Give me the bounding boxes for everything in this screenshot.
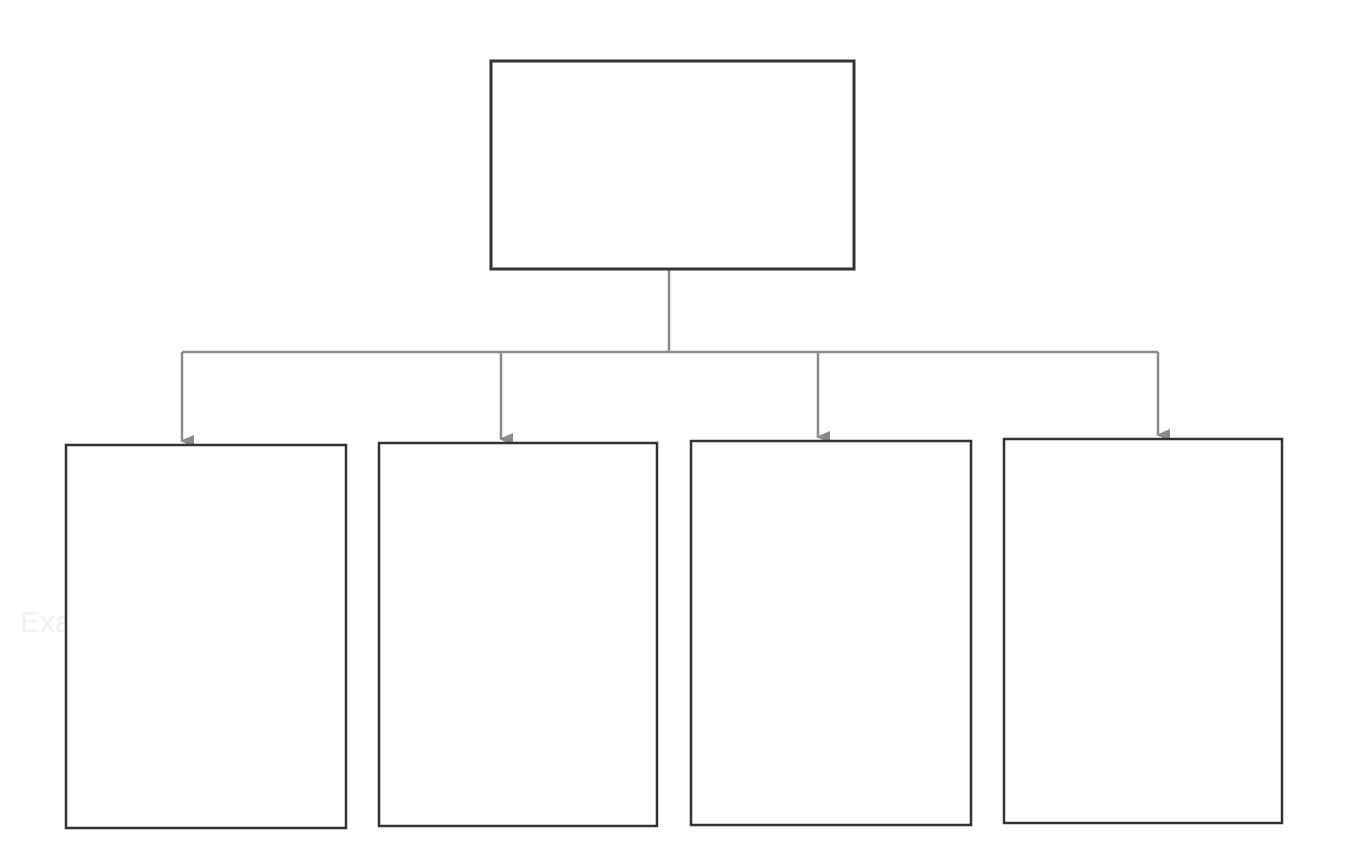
child-1-box[interactable] <box>66 445 346 828</box>
hierarchy-diagram <box>0 0 1356 868</box>
child-2-box[interactable] <box>379 443 657 826</box>
child-3-box[interactable] <box>691 441 971 825</box>
boxes <box>66 61 1282 828</box>
child-4-box[interactable] <box>1004 439 1282 823</box>
connectors <box>182 269 1158 441</box>
root-box[interactable] <box>491 61 854 269</box>
